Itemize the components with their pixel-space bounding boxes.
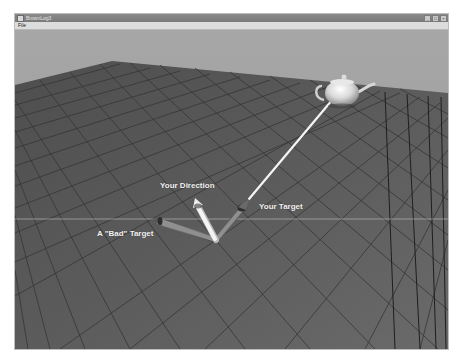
- title-bar[interactable]: BrownLog3 _ □ ×: [15, 14, 448, 22]
- 3d-viewport[interactable]: Your Direction Your Target A "Bad" Targe…: [15, 30, 448, 349]
- maximize-button[interactable]: □: [432, 15, 439, 22]
- label-your-target: Your Target: [259, 202, 303, 211]
- menu-bar: File: [15, 22, 448, 30]
- label-your-direction: Your Direction: [160, 181, 215, 190]
- close-button[interactable]: ×: [440, 15, 447, 22]
- label-bad-target: A "Bad" Target: [97, 229, 153, 238]
- window-title: BrownLog3: [26, 14, 51, 22]
- app-icon: [17, 15, 24, 22]
- scene-canvas: [15, 30, 448, 349]
- window-controls: _ □ ×: [424, 15, 447, 22]
- floor-plane: [15, 61, 448, 349]
- menu-file[interactable]: File: [18, 22, 26, 29]
- app-window: BrownLog3 _ □ × File: [15, 14, 448, 349]
- minimize-button[interactable]: _: [424, 15, 431, 22]
